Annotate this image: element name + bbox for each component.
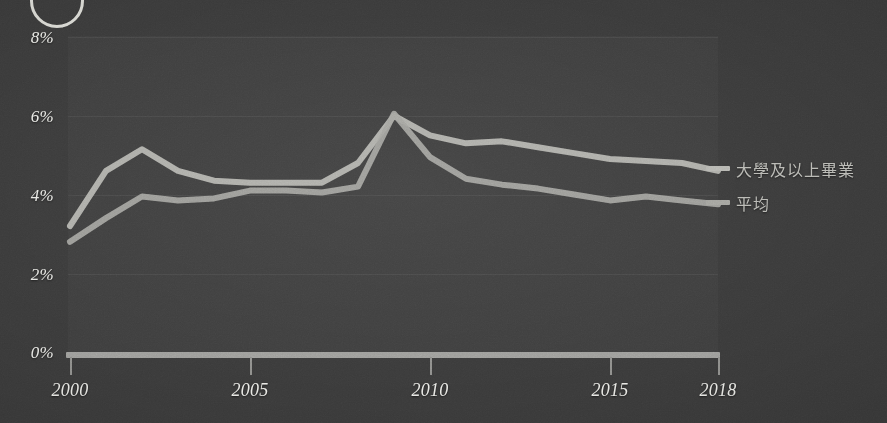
y-tick-label-4: 4% bbox=[2, 186, 54, 206]
legend-label-university: 大學及以上畢業 bbox=[736, 157, 855, 181]
x-axis-line bbox=[66, 352, 720, 358]
x-tick-label-2000: 2000 bbox=[38, 380, 102, 401]
x-tick-label-2010: 2010 bbox=[398, 380, 462, 401]
chart-screenshot: 8% 6% 4% 2% 0% 2000 2005 2010 2015 2018 … bbox=[0, 0, 887, 423]
legend-swatch-university bbox=[706, 166, 730, 171]
y-tick-label-6: 6% bbox=[2, 107, 54, 127]
line-series-university bbox=[70, 116, 718, 226]
y-tick-label-8: 8% bbox=[2, 28, 54, 48]
x-tick-label-2015: 2015 bbox=[578, 380, 642, 401]
legend-label-average: 平均 bbox=[736, 191, 770, 215]
x-tick-2010 bbox=[430, 357, 432, 375]
x-tick-2015 bbox=[610, 357, 612, 375]
y-tick-label-0: 0% bbox=[2, 343, 54, 363]
y-tick-label-2: 2% bbox=[2, 265, 54, 285]
x-tick-2018 bbox=[718, 357, 720, 375]
x-tick-label-2018: 2018 bbox=[686, 380, 750, 401]
line-series-average bbox=[70, 114, 718, 242]
legend-swatch-average bbox=[706, 200, 730, 205]
x-tick-2000 bbox=[70, 357, 72, 375]
x-tick-2005 bbox=[250, 357, 252, 375]
x-tick-label-2005: 2005 bbox=[218, 380, 282, 401]
